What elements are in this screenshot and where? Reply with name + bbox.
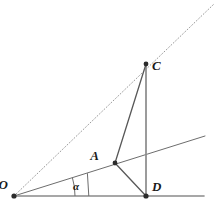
point-dot-O (11, 193, 16, 198)
point-label-C: C (152, 58, 161, 73)
point-dot-D (143, 193, 148, 198)
geometry-canvas: α O A C D (0, 0, 216, 209)
point-dot-C (144, 62, 149, 67)
angle-alpha-label: α (73, 180, 80, 192)
geometry-diagram: α O A C D (0, 0, 216, 209)
point-label-O: O (0, 177, 9, 192)
point-dot-A (113, 161, 118, 166)
point-label-A: A (89, 148, 99, 163)
point-label-D: D (151, 179, 162, 194)
